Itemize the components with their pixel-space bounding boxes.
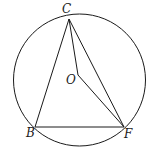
geometry-diagram: C B F O bbox=[0, 0, 155, 154]
label-c: C bbox=[62, 2, 71, 16]
segment-cb bbox=[35, 19, 69, 127]
label-f: F bbox=[123, 127, 133, 141]
label-b: B bbox=[25, 126, 35, 140]
label-o: O bbox=[66, 73, 76, 87]
